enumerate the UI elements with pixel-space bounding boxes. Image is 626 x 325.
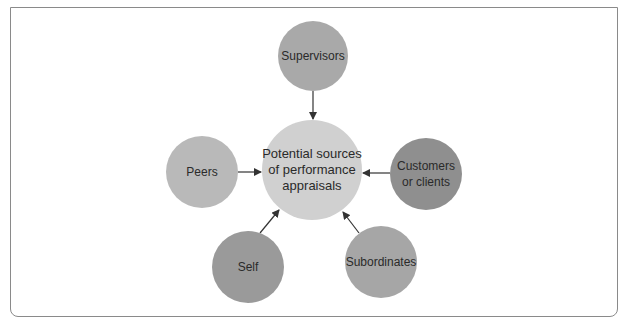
node-peers: Peers (166, 136, 238, 208)
node-customers-circle (390, 138, 462, 210)
node-supervisors-label: Supervisors (281, 49, 344, 63)
node-subordinates: Subordinates (345, 226, 417, 298)
node-center-label-line-1: Potential sources (262, 146, 362, 161)
node-self: Self (212, 231, 284, 303)
node-center-label-line-3: appraisals (282, 178, 342, 193)
arrow-self-to-center (260, 210, 279, 233)
node-self-label: Self (238, 260, 259, 274)
arrow-subordinates-to-center (343, 212, 359, 233)
performance-appraisal-sources-diagram: Supervisors Potential sources of perform… (0, 0, 626, 325)
node-supervisors: Supervisors (278, 21, 348, 91)
node-customers-label-line-2: or clients (402, 175, 450, 189)
node-center: Potential sources of performance apprais… (262, 120, 362, 220)
node-customers-label-line-1: Customers (397, 159, 455, 173)
node-center-label-line-2: of performance (268, 162, 355, 177)
node-subordinates-label: Subordinates (346, 255, 417, 269)
node-peers-label: Peers (186, 165, 217, 179)
node-customers: Customers or clients (390, 138, 462, 210)
